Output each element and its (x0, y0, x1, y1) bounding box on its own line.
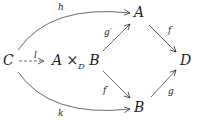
label-f-prime: f′ (103, 86, 108, 95)
label-g: g (168, 87, 174, 96)
pullback-left: A × (52, 52, 78, 68)
label-h: h (58, 3, 64, 12)
label-k: k (58, 109, 63, 118)
label-f: f (168, 26, 171, 35)
arrow-k (18, 72, 130, 110)
node-pullback: A ×D B (52, 53, 99, 71)
label-l: l (34, 51, 37, 60)
arrow-h (18, 12, 130, 50)
arrow-f (149, 25, 176, 52)
node-b: B (134, 100, 144, 114)
pullback-subscript: D (78, 62, 84, 71)
node-d: D (180, 53, 191, 67)
node-c: C (3, 53, 14, 67)
label-g-prime: g′ (104, 28, 112, 37)
pullback-right: B (89, 52, 99, 68)
node-a: A (134, 5, 144, 19)
